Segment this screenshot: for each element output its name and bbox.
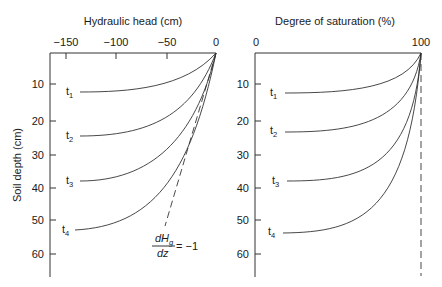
y-tick-label: 60 <box>32 248 44 260</box>
y-tick-label: 30 <box>32 149 44 161</box>
curve-t4 <box>283 53 421 233</box>
y-tick-label: 20 <box>237 115 249 127</box>
y-tick-label: 10 <box>32 78 44 90</box>
curve-t2 <box>80 53 216 136</box>
y-tick-label: 40 <box>32 182 44 194</box>
hydraulic-head-panel: Hydraulic head (cm) −150 −100 −50 0 10 2… <box>11 15 219 277</box>
curve-label-t3: t3 <box>66 174 73 189</box>
annotation-equals: = −1 <box>176 240 198 252</box>
y-tick-label: 50 <box>237 214 249 226</box>
annotation-denominator: dz <box>157 247 169 259</box>
x-tick-label: −100 <box>104 36 129 48</box>
annotation-numerator: dHg <box>155 232 174 247</box>
curve-label-t3: t3 <box>272 174 279 189</box>
curve-t3 <box>80 53 216 181</box>
x-tick-label: 100 <box>412 36 430 48</box>
curve-label-t2: t2 <box>66 129 73 144</box>
curve-label-t4: t4 <box>268 225 275 240</box>
gradient-annotation: dHg dz = −1 <box>152 232 198 259</box>
figure: Hydraulic head (cm) −150 −100 −50 0 10 2… <box>0 0 442 287</box>
right-panel-title: Degree of saturation (%) <box>275 15 395 27</box>
x-tick-label: −50 <box>158 36 177 48</box>
y-axis-label: Soil depth (cm) <box>11 128 23 202</box>
y-tick-label: 20 <box>32 115 44 127</box>
curve-label-t1: t1 <box>270 86 277 101</box>
left-panel-title: Hydraulic head (cm) <box>84 15 182 27</box>
x-tick-label: 0 <box>253 36 259 48</box>
y-tick-label: 30 <box>237 149 249 161</box>
curve-t1 <box>80 53 216 92</box>
y-tick-label: 50 <box>32 214 44 226</box>
curve-t4 <box>75 53 216 230</box>
curve-t1 <box>285 53 421 93</box>
saturation-panel: Degree of saturation (%) 0 100 10 20 30 … <box>237 15 430 277</box>
y-tick-label: 40 <box>237 182 249 194</box>
curve-label-t1: t1 <box>66 85 73 100</box>
unit-gradient-line <box>165 53 216 226</box>
x-tick-label: −150 <box>54 36 79 48</box>
y-tick-label: 10 <box>237 78 249 90</box>
y-tick-label: 60 <box>237 248 249 260</box>
curve-label-t4: t4 <box>62 223 69 238</box>
curve-label-t2: t2 <box>270 124 277 139</box>
x-tick-label: 0 <box>213 36 219 48</box>
